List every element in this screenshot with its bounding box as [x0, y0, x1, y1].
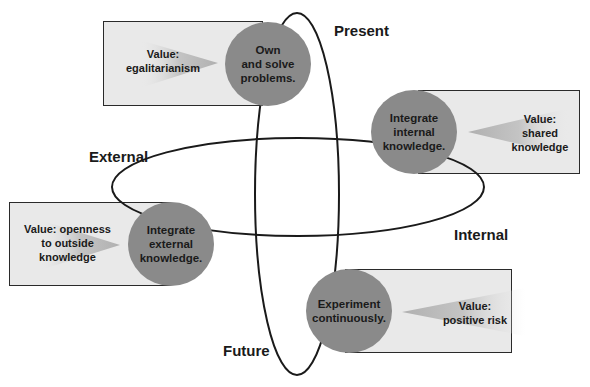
value-text-shared-knowledge: Value: shared knowledge [500, 112, 580, 154]
axis-label-present: Present [334, 22, 389, 39]
axis-label-future: Future [223, 342, 270, 359]
circle-integrate-external: Integrate external knowledge. [128, 202, 214, 286]
circle-integrate-internal: Integrate internal knowledge. [371, 90, 457, 174]
circle-experiment: Experiment continuously. [306, 269, 392, 353]
circle-own-solve-label: Own and solve problems. [241, 43, 296, 85]
axis-label-internal: Internal [454, 226, 508, 243]
circle-experiment-label: Experiment continuously. [312, 297, 386, 325]
circle-own-solve: Own and solve problems. [225, 22, 311, 106]
diagram-canvas: Own and solve problems. Integrate intern… [0, 0, 590, 387]
circle-integrate-internal-label: Integrate internal knowledge. [383, 111, 446, 153]
circle-integrate-external-label: Integrate external knowledge. [140, 223, 203, 265]
value-text-openness: Value: openness to outside knowledge [10, 222, 125, 264]
value-text-positive-risk: Value: positive risk [425, 299, 525, 327]
axis-label-external: External [89, 148, 148, 165]
value-text-egalitarianism: Value: egalitarianism [108, 47, 218, 75]
